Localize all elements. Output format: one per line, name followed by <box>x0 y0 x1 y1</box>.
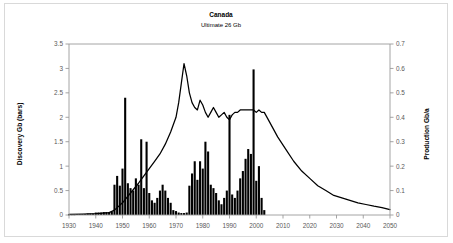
y2-tick-label: 0.4 <box>396 114 405 121</box>
discovery-bar <box>154 203 156 215</box>
discovery-bar <box>236 191 238 215</box>
discovery-bar <box>210 185 212 215</box>
discovery-bar <box>172 210 174 215</box>
discovery-bar <box>226 191 228 215</box>
discovery-bar <box>204 142 206 215</box>
discovery-bar <box>119 186 121 215</box>
y-tick-label: 1.5 <box>54 138 63 145</box>
discovery-bar <box>135 178 137 215</box>
x-tick-label: 1960 <box>142 222 157 229</box>
x-tick-label: 2050 <box>383 222 398 229</box>
y2-tick-label: 0.5 <box>396 89 405 96</box>
x-tick-label: 1950 <box>115 222 130 229</box>
discovery-bar <box>164 191 166 215</box>
discovery-bar <box>220 204 222 215</box>
y-axis-label: Discovery Gb (bars) <box>16 103 24 166</box>
x-tick-label: 1980 <box>196 222 211 229</box>
discovery-bar <box>127 183 129 215</box>
x-tick-label: 2030 <box>329 222 344 229</box>
chart-title: Canada <box>209 11 233 18</box>
discovery-bar <box>138 185 140 215</box>
x-tick-label: 1930 <box>62 222 77 229</box>
discovery-bar <box>146 142 148 215</box>
discovery-bar <box>207 151 209 215</box>
y2-tick-label: 0.1 <box>396 187 405 194</box>
x-tick-label: 2040 <box>356 222 371 229</box>
discovery-bar <box>242 171 244 215</box>
x-tick-label: 1990 <box>222 222 237 229</box>
y-tick-label: 0.5 <box>54 187 63 194</box>
discovery-bar <box>148 193 150 215</box>
x-axis-ticks: 1930194019501960197019801990200020102020… <box>62 215 398 229</box>
discovery-bar <box>247 149 249 215</box>
discovery-bar <box>245 159 247 215</box>
discovery-bar <box>212 188 214 215</box>
y-tick-label: 1 <box>59 163 63 170</box>
discovery-bar <box>159 191 161 215</box>
y2-tick-label: 0 <box>396 211 400 218</box>
discovery-bar <box>191 173 193 215</box>
discovery-bar <box>223 198 225 215</box>
discovery-bar <box>218 200 220 215</box>
x-tick-label: 2010 <box>276 222 291 229</box>
y2-tick-label: 0.7 <box>396 40 405 47</box>
y2-axis-label: Production Gb/a <box>423 108 430 160</box>
discovery-bar <box>151 200 153 215</box>
discovery-bar <box>231 194 233 215</box>
discovery-bar <box>188 186 190 215</box>
discovery-bar <box>121 169 123 215</box>
x-tick-label: 1940 <box>89 222 104 229</box>
y2-tick-label: 0.6 <box>396 65 405 72</box>
y-tick-label: 2 <box>59 114 63 121</box>
discovery-bar <box>228 115 230 215</box>
discovery-bar <box>124 98 126 215</box>
discovery-bar <box>199 161 201 215</box>
discovery-bar <box>156 198 158 215</box>
discovery-bar <box>162 185 164 215</box>
discovery-bar <box>250 154 252 215</box>
x-tick-label: 2000 <box>249 222 264 229</box>
production-discovery-chart: Canada Ultimate 26 Gb Discovery Gb (bars… <box>5 4 447 236</box>
x-tick-label: 1970 <box>169 222 184 229</box>
discovery-bar <box>143 188 145 215</box>
y2-axis-ticks: 00.10.20.30.40.50.60.7 <box>390 40 405 218</box>
y-tick-label: 3.5 <box>54 40 63 47</box>
y2-tick-label: 0.2 <box>396 163 405 170</box>
y-tick-label: 2.5 <box>54 89 63 96</box>
y2-tick-label: 0.3 <box>396 138 405 145</box>
chart-container: Canada Ultimate 26 Gb Discovery Gb (bars… <box>4 3 448 237</box>
y-axis-ticks: 00.511.522.533.5 <box>54 40 69 218</box>
discovery-bar <box>202 169 204 215</box>
discovery-bar <box>255 181 257 215</box>
discovery-bar <box>167 198 169 215</box>
discovery-bar <box>261 198 263 215</box>
discovery-bar <box>175 211 177 215</box>
discovery-bar <box>194 161 196 215</box>
discovery-bar <box>170 203 172 215</box>
chart-subtitle: Ultimate 26 Gb <box>201 22 242 28</box>
discovery-bar <box>140 139 142 215</box>
discovery-bar <box>263 210 265 215</box>
y-tick-label: 3 <box>59 65 63 72</box>
x-tick-label: 2020 <box>303 222 318 229</box>
discovery-bar <box>258 166 260 215</box>
discovery-bar <box>253 69 255 215</box>
discovery-bar <box>234 198 236 215</box>
discovery-bar <box>132 191 134 215</box>
discovery-bar <box>196 180 198 215</box>
discovery-bar <box>239 178 241 215</box>
discovery-bar <box>215 193 217 215</box>
y-tick-label: 0 <box>59 211 63 218</box>
